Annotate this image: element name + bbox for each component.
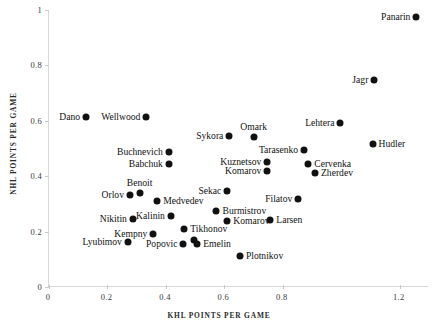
data-point-label: Buchnevich — [117, 147, 163, 157]
data-point-label: Filatov — [265, 194, 292, 204]
y-tick-label: 0.8 — [12, 60, 42, 70]
data-point-label: Popovic — [146, 239, 177, 249]
x-tick-mark — [107, 285, 108, 289]
y-tick-mark — [45, 176, 49, 177]
data-point-label: Kalinin — [136, 211, 165, 221]
x-tick-mark — [400, 285, 401, 289]
data-point-label: Babchuk — [129, 159, 163, 169]
y-tick-mark — [45, 232, 49, 233]
y-tick-label: 0.4 — [12, 171, 42, 181]
data-point-label: Omark — [240, 122, 267, 132]
data-point-marker — [83, 113, 90, 120]
data-point-marker — [369, 141, 376, 148]
x-tick-mark — [49, 285, 50, 289]
data-point-marker — [371, 76, 378, 83]
data-point-label: Komarov — [225, 166, 261, 176]
data-point-marker — [165, 161, 172, 168]
data-point-label: Dano — [59, 112, 80, 122]
data-point-label: Lehtera — [305, 118, 334, 128]
x-tick-label: 0.6 — [218, 292, 230, 302]
y-tick-label: 0 — [12, 282, 42, 292]
data-point-label: Hudler — [379, 139, 406, 149]
scatter-chart: PanarinJagrDanoWellwoodLehteraSykoraOmar… — [0, 0, 438, 332]
data-point-marker — [136, 190, 143, 197]
x-tick-label: 0.2 — [101, 292, 113, 302]
data-point-marker — [337, 120, 344, 127]
x-axis-title: KHL POINTS PER GAME — [0, 311, 438, 320]
data-point-marker — [181, 226, 188, 233]
x-tick-mark — [166, 285, 167, 289]
x-tick-label: 0 — [46, 292, 51, 302]
data-point-marker — [213, 208, 220, 215]
y-tick-mark — [45, 121, 49, 122]
y-tick-mark — [45, 65, 49, 66]
x-tick-label: 1.2 — [393, 292, 405, 302]
data-point-marker — [126, 192, 133, 199]
data-point-label: Medvedev — [163, 196, 204, 206]
y-tick-label: 0.6 — [12, 116, 42, 126]
data-point-marker — [295, 196, 302, 203]
data-point-marker — [264, 159, 271, 166]
x-tick-mark — [283, 285, 284, 289]
data-point-label: Jagr — [352, 75, 368, 85]
data-point-label: Lyubimov — [82, 237, 121, 247]
data-point-marker — [413, 13, 420, 20]
x-tick-mark — [224, 285, 225, 289]
data-point-marker — [124, 239, 131, 246]
data-point-label: Plotnikov — [246, 251, 283, 261]
data-point-marker — [305, 161, 312, 168]
data-point-marker — [312, 170, 319, 177]
data-point-label: Zherdev — [321, 168, 353, 178]
data-point-marker — [167, 213, 174, 220]
data-point-label: Tarasenko — [259, 145, 298, 155]
data-point-label: Tikhonov — [190, 224, 227, 234]
data-point-marker — [143, 113, 150, 120]
data-point-marker — [154, 198, 161, 205]
y-tick-mark — [45, 10, 49, 11]
y-tick-mark — [45, 287, 49, 288]
data-point-marker — [236, 252, 243, 259]
data-point-label: Nikitin — [100, 214, 127, 224]
data-point-marker — [191, 237, 198, 244]
y-tick-label: 1 — [12, 5, 42, 15]
data-point-marker — [301, 147, 308, 154]
data-point-label: Panarin — [381, 12, 410, 22]
data-point-marker — [267, 217, 274, 224]
plot-area: PanarinJagrDanoWellwoodLehteraSykoraOmar… — [48, 10, 428, 287]
data-point-marker — [150, 231, 157, 238]
data-point-marker — [264, 167, 271, 174]
data-point-marker — [224, 188, 231, 195]
data-point-label: Komarov — [233, 216, 269, 226]
data-point-label: Orlov — [102, 190, 124, 200]
data-point-marker — [226, 133, 233, 140]
data-point-label: Sykora — [196, 131, 223, 141]
y-axis-title: NHL POINTS PER GAME — [9, 74, 18, 214]
data-point-label: Larsen — [276, 215, 302, 225]
x-tick-label: 0.4 — [159, 292, 171, 302]
data-point-label: Benoit — [127, 178, 153, 188]
data-point-label: Emelin — [203, 239, 231, 249]
x-tick-label: 0.8 — [276, 292, 288, 302]
data-point-marker — [165, 149, 172, 156]
data-point-label: Wellwood — [101, 112, 140, 122]
y-tick-label: 0.2 — [12, 227, 42, 237]
data-point-marker — [180, 241, 187, 248]
data-point-marker — [250, 134, 257, 141]
